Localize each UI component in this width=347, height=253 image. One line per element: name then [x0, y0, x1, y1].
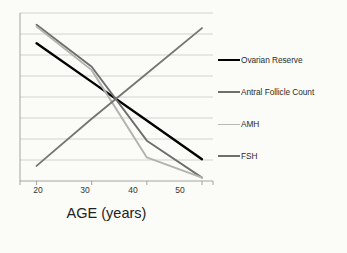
legend-item-ovarian-reserve: Ovarian Reserve	[218, 46, 347, 74]
x-tick-50: 50	[169, 185, 191, 195]
legend-label-fsh: FSH	[241, 151, 257, 161]
legend-label-ovarian-reserve: Ovarian Reserve	[241, 55, 303, 65]
x-tick-40: 40	[122, 185, 144, 195]
legend-item-antral-follicle-count: Antral Follicle Count	[218, 78, 347, 106]
chart-legend: Ovarian Reserve Antral Follicle Count AM…	[218, 46, 347, 174]
legend-line-swatch-icon	[218, 91, 240, 93]
x-tick-30: 30	[74, 185, 96, 195]
chart-figure: 20 30 40 50 AGE (years) Ovarian Reserve …	[0, 0, 347, 253]
legend-line-swatch-icon	[218, 124, 240, 125]
x-axis-title: AGE (years)	[0, 205, 213, 221]
data-series-group	[37, 25, 202, 178]
legend-line-swatch-icon	[218, 59, 240, 61]
legend-item-fsh: FSH	[218, 142, 347, 170]
x-tick-20: 20	[27, 185, 49, 195]
legend-label-amh: AMH	[241, 119, 259, 129]
legend-line-swatch-icon	[218, 155, 240, 157]
legend-label-antral-follicle-count: Antral Follicle Count	[241, 87, 314, 97]
legend-item-amh: AMH	[218, 110, 347, 138]
